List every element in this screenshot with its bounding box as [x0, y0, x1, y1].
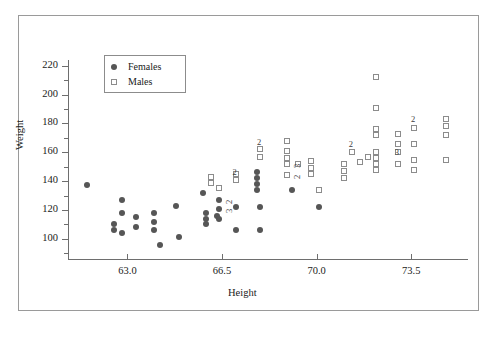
chart-legend: Females Males — [104, 55, 186, 93]
data-point-males — [257, 154, 263, 160]
y-tick-label-220: 220 — [28, 59, 58, 70]
data-point-females — [203, 221, 209, 227]
data-point-males — [373, 132, 379, 138]
data-point-females — [119, 197, 125, 203]
data-point-males — [365, 154, 371, 160]
point-count-label-4: 3 — [292, 164, 302, 168]
x-tick-label-3: 73.5 — [395, 265, 427, 276]
x-tick-label-1: 66.5 — [206, 265, 238, 276]
point-count-label-0: 2 — [224, 200, 234, 204]
data-point-females — [111, 227, 117, 233]
data-point-males — [284, 161, 290, 167]
data-point-females — [216, 197, 222, 203]
y-tick-110 — [64, 224, 68, 225]
data-point-females — [216, 216, 222, 222]
data-point-males — [284, 148, 290, 154]
y-tick-140 — [62, 181, 68, 182]
data-point-males — [341, 168, 347, 174]
data-point-females — [119, 230, 125, 236]
data-point-males — [395, 161, 401, 167]
data-point-females — [203, 210, 209, 216]
point-count-label-1: 3 — [224, 208, 234, 212]
data-point-females — [133, 224, 139, 230]
data-point-males — [443, 116, 449, 122]
point-count-label-6: 2 — [349, 139, 353, 149]
data-point-males — [373, 105, 379, 111]
data-point-males — [411, 125, 417, 131]
y-tick-190 — [64, 109, 68, 110]
data-point-females — [173, 203, 179, 209]
data-point-females — [289, 187, 295, 193]
x-tick-label-0: 63.0 — [111, 265, 143, 276]
data-point-males — [373, 167, 379, 173]
y-tick-160 — [62, 152, 68, 153]
data-point-females — [257, 227, 263, 233]
legend-label-males: Males — [128, 76, 152, 87]
data-point-females — [133, 214, 139, 220]
data-point-females — [233, 227, 239, 233]
scatter-plot: Weight Height 10012014016018020022063.06… — [0, 0, 499, 354]
y-tick-210 — [64, 80, 68, 81]
data-point-males — [341, 175, 347, 181]
data-point-females — [151, 219, 157, 225]
y-tick-100 — [62, 239, 68, 240]
data-point-females — [119, 210, 125, 216]
y-tick-label-120: 120 — [28, 203, 58, 214]
data-point-males — [443, 157, 449, 163]
point-count-label-8: 2 — [411, 114, 415, 124]
y-tick-180 — [62, 123, 68, 124]
data-point-females — [151, 227, 157, 233]
x-tick-2 — [317, 254, 318, 259]
y-tick-label-100: 100 — [28, 232, 58, 243]
point-count-label-5: 2 — [292, 175, 302, 179]
y-tick-label-180: 180 — [28, 116, 58, 127]
y-tick-170 — [64, 138, 68, 139]
data-point-males — [373, 74, 379, 80]
data-point-males — [208, 180, 214, 186]
y-tick-90 — [64, 253, 68, 254]
data-point-males — [349, 149, 355, 155]
point-count-label-2: 2 — [233, 167, 237, 177]
data-point-females — [257, 204, 263, 210]
data-point-females — [200, 190, 206, 196]
x-axis-line — [68, 259, 468, 260]
data-point-females — [84, 182, 90, 188]
x-tick-0 — [127, 254, 128, 259]
y-tick-label-140: 140 — [28, 174, 58, 185]
y-axis-line — [68, 60, 69, 259]
point-count-label-3: 2 — [257, 137, 261, 147]
open-square-icon — [111, 79, 117, 85]
legend-label-females: Females — [128, 61, 161, 72]
x-tick-label-2: 70.0 — [301, 265, 333, 276]
data-point-males — [284, 138, 290, 144]
data-point-females — [157, 242, 163, 248]
y-tick-120 — [62, 210, 68, 211]
data-point-females — [176, 234, 182, 240]
y-tick-label-160: 160 — [28, 145, 58, 156]
x-tick-1 — [222, 254, 223, 259]
y-tick-130 — [64, 196, 68, 197]
data-point-males — [341, 161, 347, 167]
x-tick-3 — [411, 254, 412, 259]
data-point-males — [308, 171, 314, 177]
data-point-males — [443, 132, 449, 138]
data-point-males — [284, 172, 290, 178]
data-point-males — [411, 167, 417, 173]
data-point-females — [151, 210, 157, 216]
data-point-males — [233, 177, 239, 183]
y-tick-200 — [62, 95, 68, 96]
x-axis-title: Height — [228, 287, 257, 298]
data-point-males — [395, 141, 401, 147]
y-tick-220 — [62, 66, 68, 67]
data-point-males — [216, 185, 222, 191]
y-tick-150 — [64, 167, 68, 168]
y-tick-label-200: 200 — [28, 88, 58, 99]
data-point-males — [257, 146, 263, 152]
data-point-males — [395, 131, 401, 137]
data-point-males — [443, 123, 449, 129]
point-count-label-7: 3 — [395, 147, 399, 157]
filled-circle-icon — [111, 64, 117, 70]
data-point-females — [316, 204, 322, 210]
data-point-males — [357, 159, 363, 165]
y-axis-title: Weight — [14, 120, 25, 150]
